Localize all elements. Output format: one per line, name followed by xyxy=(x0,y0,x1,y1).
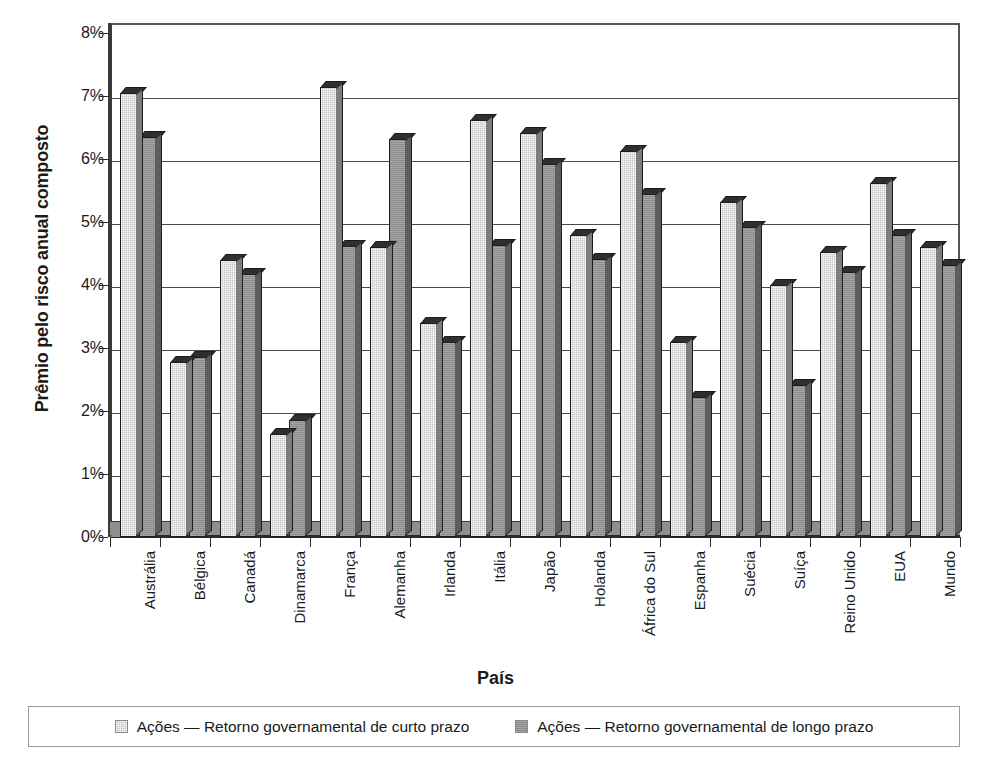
x-axis-line xyxy=(110,537,960,538)
x-axis-tick-mark xyxy=(910,537,911,547)
bar-group xyxy=(162,23,212,537)
bar-side-face xyxy=(855,268,862,536)
bar-group xyxy=(912,23,962,537)
bar-side-face xyxy=(686,337,693,536)
bar-side-face xyxy=(455,337,462,536)
bar-side-face xyxy=(236,255,243,536)
legend-item[interactable]: Ações — Retorno governamental de longo p… xyxy=(515,718,873,736)
x-axis-tick-mark xyxy=(310,537,311,547)
bar-group xyxy=(212,23,262,537)
x-axis-tick-label: Bélgica xyxy=(191,551,208,600)
x-axis-tick-label: EUA xyxy=(891,551,908,582)
bar xyxy=(220,260,237,537)
bar xyxy=(470,120,487,537)
bar xyxy=(570,235,587,537)
x-axis-tick-mark xyxy=(760,537,761,547)
bar-side-face xyxy=(155,132,162,536)
x-axis-tick-label: Espanha xyxy=(691,551,708,610)
bar xyxy=(670,342,687,537)
bar-side-face xyxy=(355,241,362,536)
bar-group xyxy=(662,23,712,537)
x-axis-tick-mark xyxy=(260,537,261,547)
x-axis-title: País xyxy=(0,668,991,689)
bar xyxy=(770,285,787,537)
y-axis-tick-label: 8% xyxy=(58,24,104,42)
x-axis-tick-label: África do Sul xyxy=(641,551,658,636)
x-axis-tick-label: Holanda xyxy=(591,551,608,607)
x-axis-tick-label: Irlanda xyxy=(441,551,458,597)
bar-series-container xyxy=(112,23,958,537)
bar-side-face xyxy=(486,115,493,536)
bar-side-face xyxy=(905,230,912,536)
bar-side-face xyxy=(386,242,393,536)
x-axis-tick-label: Suécia xyxy=(741,551,758,597)
y-axis-tick-mark xyxy=(99,159,108,160)
bar xyxy=(370,247,387,537)
bar-side-face xyxy=(786,280,793,536)
bar-side-face xyxy=(955,260,962,536)
y-axis-tick-mark xyxy=(99,96,108,97)
legend-item[interactable]: Ações — Retorno governamental de curto p… xyxy=(115,718,470,736)
light-gray-swatch xyxy=(115,720,128,733)
bar-group xyxy=(812,23,862,537)
bar-side-face xyxy=(405,134,412,536)
bar-side-face xyxy=(555,159,562,536)
legend-item-label: Ações — Retorno governamental de longo p… xyxy=(537,718,873,736)
y-axis-tick-mark xyxy=(99,33,108,34)
x-axis-tick-mark xyxy=(460,537,461,547)
bar-side-face xyxy=(136,88,143,536)
x-axis-tick-mark xyxy=(110,537,111,547)
bar-side-face xyxy=(536,128,543,536)
x-axis-tick-mark xyxy=(510,537,511,547)
bar-group xyxy=(712,23,762,537)
x-axis-tick-mark xyxy=(860,537,861,547)
bar-side-face xyxy=(736,197,743,536)
x-axis-tick-mark xyxy=(560,537,561,547)
bar-group xyxy=(362,23,412,537)
bar-side-face xyxy=(886,178,893,536)
dark-gray-swatch xyxy=(515,720,528,733)
bar-side-face xyxy=(605,254,612,536)
x-axis-tick-label: Japão xyxy=(541,551,558,592)
y-axis-tick-label: 2% xyxy=(58,402,104,420)
bar xyxy=(420,323,437,537)
bar-group xyxy=(562,23,612,537)
x-axis-tick-label: Itália xyxy=(491,551,508,583)
bar xyxy=(170,362,187,537)
bar-side-face xyxy=(205,352,212,536)
y-axis-tick-label: 7% xyxy=(58,87,104,105)
y-axis-tick-label: 6% xyxy=(58,150,104,168)
x-axis-tick-label: França xyxy=(341,551,358,598)
bar xyxy=(720,202,737,537)
y-axis-tick-label: 4% xyxy=(58,276,104,294)
x-axis-tick-mark xyxy=(610,537,611,547)
x-axis-tick-mark xyxy=(360,537,361,547)
bar-side-face xyxy=(805,380,812,536)
bar xyxy=(320,87,337,537)
bar-side-face xyxy=(186,357,193,536)
bar xyxy=(820,252,837,537)
x-axis-tick-label: Alemanha xyxy=(391,551,408,619)
x-axis-tick-mark xyxy=(410,537,411,547)
bar-group xyxy=(112,23,162,537)
bar-group xyxy=(462,23,512,537)
bar xyxy=(870,183,887,537)
x-axis-tick-label: Suíça xyxy=(791,551,808,589)
bar-side-face xyxy=(705,392,712,536)
y-axis-tick-labels: 0%1%2%3%4%5%6%7%8% xyxy=(48,0,104,560)
x-axis-tick-label: Canadá xyxy=(241,551,258,604)
bar-side-face xyxy=(436,318,443,536)
x-axis-tick-label: Mundo xyxy=(941,551,958,597)
y-axis-tick-mark xyxy=(99,222,108,223)
x-axis-tick-mark xyxy=(660,537,661,547)
x-axis-tick-mark xyxy=(160,537,161,547)
bar-side-face xyxy=(336,82,343,536)
bar-group xyxy=(312,23,362,537)
bar-group xyxy=(862,23,912,537)
x-axis-tick-label: Reino Unido xyxy=(841,551,858,634)
bar-side-face xyxy=(286,429,293,536)
bar xyxy=(120,93,137,537)
x-axis-tick-mark xyxy=(210,537,211,547)
bar xyxy=(920,247,937,537)
bar-side-face xyxy=(255,269,262,536)
